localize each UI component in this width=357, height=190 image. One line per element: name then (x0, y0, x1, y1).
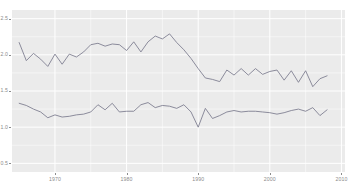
y-tick-mark (9, 163, 11, 164)
y-tick-label: 2.0 (0, 52, 8, 57)
x-tick-label: 1970 (42, 177, 68, 182)
series-lines (12, 10, 345, 172)
plot-panel (12, 10, 345, 172)
x-tick-label: 2000 (257, 177, 283, 182)
x-tick-mark (55, 173, 56, 175)
series-line-1 (19, 103, 327, 128)
y-tick-mark (9, 55, 11, 56)
x-tick-mark (270, 173, 271, 175)
y-tick-mark (9, 127, 11, 128)
y-tick-mark (9, 19, 11, 20)
x-tick-label: 1980 (114, 177, 140, 182)
x-tick-mark (127, 173, 128, 175)
y-tick-mark (9, 91, 11, 92)
series-line-0 (19, 34, 327, 87)
chart-root: 0.51.01.52.02.5 19701980199020002010 (0, 0, 357, 190)
x-tick-mark (341, 173, 342, 175)
x-tick-mark (198, 173, 199, 175)
y-tick-label: 0.5 (0, 161, 8, 166)
y-tick-label: 1.0 (0, 125, 8, 130)
y-tick-label: 1.5 (0, 88, 8, 93)
y-tick-label: 2.5 (0, 16, 8, 21)
x-tick-label: 2010 (328, 177, 354, 182)
x-tick-label: 1990 (185, 177, 211, 182)
